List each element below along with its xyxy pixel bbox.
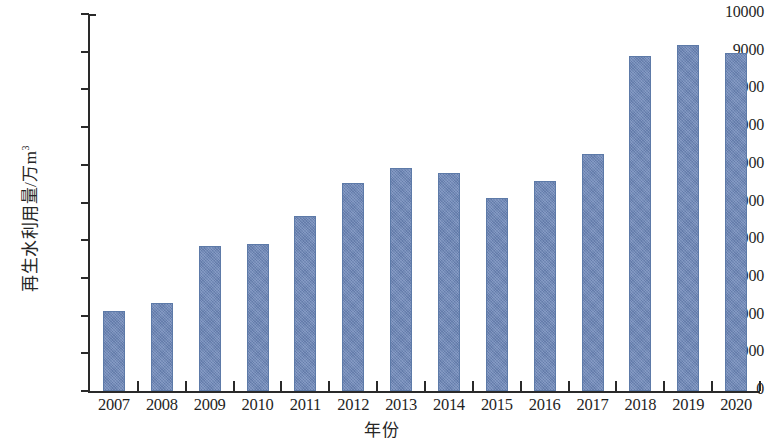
bar: [247, 244, 269, 391]
bar: [486, 198, 508, 391]
bar: [725, 53, 747, 391]
x-axis-title: 年份: [0, 416, 764, 440]
bar: [342, 183, 364, 391]
bar: [294, 216, 316, 391]
bar: [582, 154, 604, 391]
bar: [438, 173, 460, 391]
bar: [151, 303, 173, 391]
bar: [390, 168, 412, 391]
bar: [103, 311, 125, 391]
bar: [677, 45, 699, 391]
bar: [534, 181, 556, 391]
bar: [199, 246, 221, 391]
bar: [629, 56, 651, 391]
